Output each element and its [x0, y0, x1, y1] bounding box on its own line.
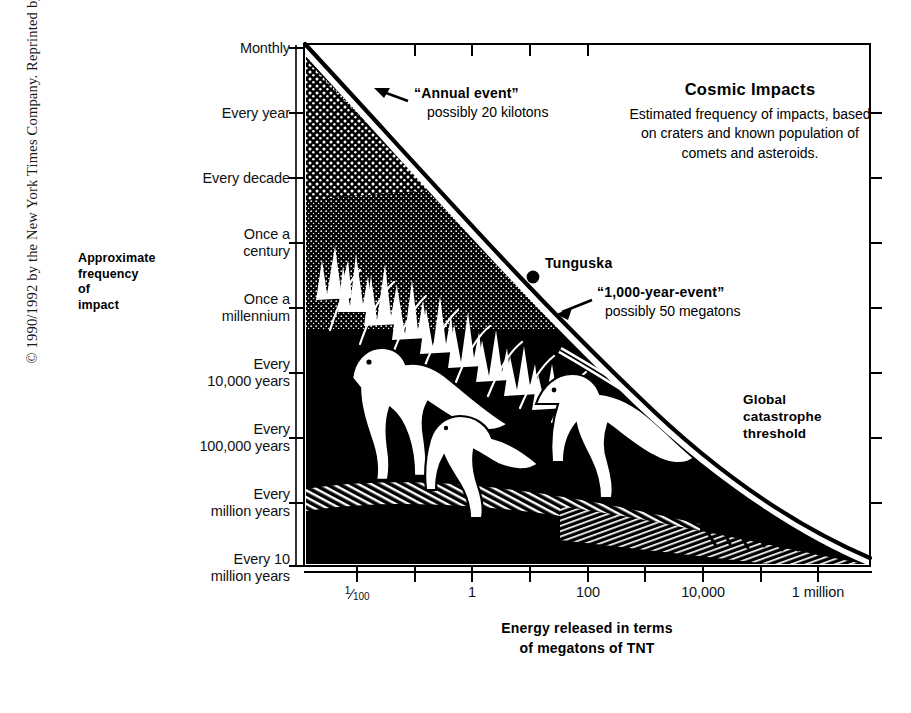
x-axis-title-line1: Energy released in terms: [302, 618, 872, 638]
annotation-tunguska-label: Tunguska: [545, 255, 612, 271]
x-tick-label-1: 1: [468, 584, 476, 600]
x-tick-label-1-million: 1 million: [792, 584, 844, 600]
global-threshold-line3: threshold: [743, 425, 822, 442]
annotation-global-catastrophe-threshold: Global catastrophe threshold: [743, 391, 822, 442]
x-tick-label-10000: 10,000: [681, 584, 725, 600]
annotation-chart-title-block: Cosmic Impacts Estimated frequency of im…: [626, 80, 874, 163]
x-tick-label-100: 100: [576, 584, 600, 600]
chart-title: Cosmic Impacts: [626, 80, 874, 100]
global-threshold-line1: Global: [743, 391, 822, 408]
chart-page: © 1990/1992 by the New York Times Compan…: [0, 0, 911, 713]
chart-subtitle: Estimated frequency of impacts, based on…: [629, 106, 870, 161]
x-axis-title-line2: of megatons of TNT: [302, 638, 872, 658]
global-threshold-line2: catastrophe: [743, 408, 822, 425]
annotation-annual-event: “Annual event” possibly 20 kilotons: [414, 84, 548, 122]
annual-event-headline: “Annual event”: [414, 84, 548, 103]
x-axis-title: Energy released in terms of megatons of …: [302, 618, 872, 658]
fraction-one-over-hundred: 1⁄100: [345, 584, 370, 602]
thousand-year-headline: “1,000-year-event”: [597, 283, 740, 302]
annual-event-subtext: possibly 20 kilotons: [414, 103, 548, 122]
thousand-year-subtext: possibly 50 megatons: [597, 302, 740, 321]
annotation-thousand-year-event: “1,000-year-event” possibly 50 megatons: [597, 283, 740, 321]
x-tick-label-one-hundredth: 1⁄100: [345, 584, 370, 602]
